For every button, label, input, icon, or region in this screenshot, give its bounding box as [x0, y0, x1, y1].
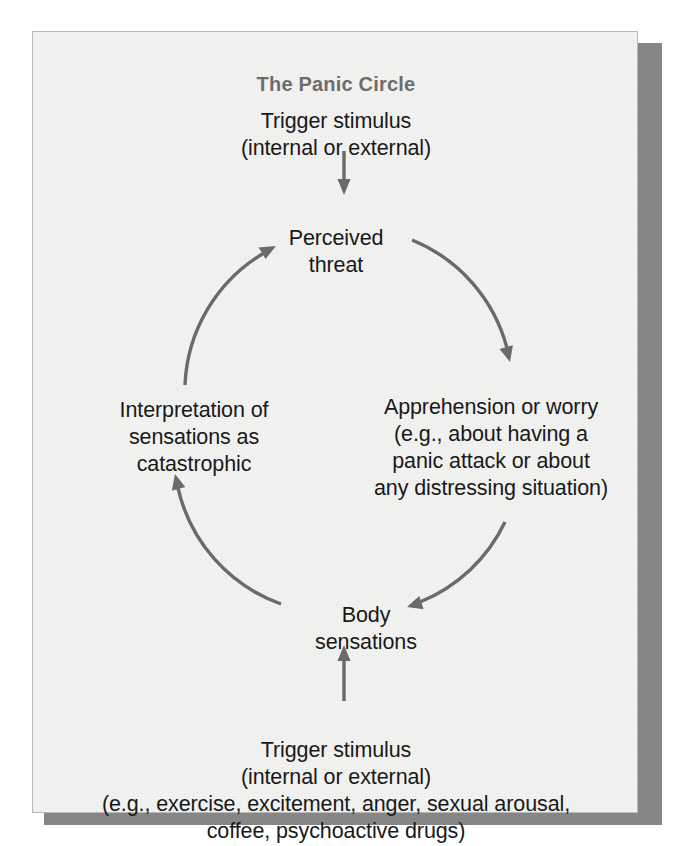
node-trigger-stimulus-bottom: Trigger stimulus (internal or external) …	[56, 737, 616, 845]
node-apprehension-or-worry: Apprehension or worry (e.g., about havin…	[343, 394, 639, 502]
node-body-sensations: Body sensations	[286, 602, 446, 656]
node-trigger-stimulus-top: Trigger stimulus (internal or external)	[156, 108, 516, 162]
node-perceived-threat: Perceived threat	[256, 225, 416, 279]
clockwise-arc-bottom-left-icon	[172, 474, 281, 604]
node-interpretation-of-sensations: Interpretation of sensations as catastro…	[79, 397, 309, 478]
clockwise-arc-top-right-icon	[412, 240, 513, 362]
clockwise-arc-bottom-right-icon	[407, 522, 505, 609]
panic-circle-figure: The Panic Circle	[32, 31, 638, 813]
